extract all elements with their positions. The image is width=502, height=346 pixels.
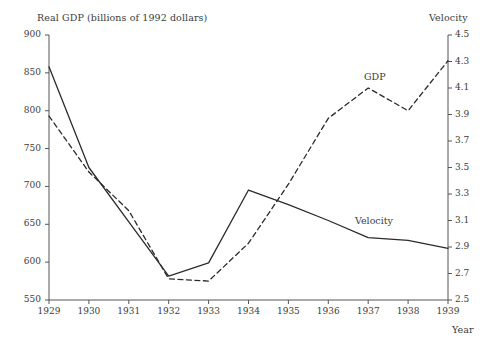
left-tick-label: 850 [15, 67, 41, 77]
right-tick-label: 3.9 [455, 109, 479, 119]
right-tick-label: 3.7 [455, 135, 479, 145]
ticks-group [45, 35, 452, 304]
right-tick-label: 2.5 [455, 294, 479, 304]
left-tick-label: 700 [15, 180, 41, 190]
left-tick-label: 550 [15, 294, 41, 304]
x-tick-label: 1929 [29, 306, 69, 316]
x-tick-label: 1930 [69, 306, 109, 316]
x-tick-label: 1935 [268, 306, 308, 316]
series-line-velocity [49, 67, 448, 276]
right-tick-label: 4.5 [455, 29, 479, 39]
right-tick-label: 4.1 [455, 82, 479, 92]
x-tick-label: 1938 [388, 306, 428, 316]
x-tick-label: 1936 [308, 306, 348, 316]
chart-figure: Real GDP (billions of 1992 dollars) Velo… [0, 0, 502, 346]
right-tick-label: 4.3 [455, 56, 479, 66]
series-line-gdp [49, 61, 448, 281]
right-axis-title: Velocity [429, 12, 468, 23]
plot-area [0, 0, 502, 346]
gdp-series-label: GDP [364, 71, 386, 82]
x-axis-title: Year [452, 324, 474, 335]
left-axis-title: Real GDP (billions of 1992 dollars) [37, 12, 207, 23]
right-tick-label: 2.9 [455, 241, 479, 251]
left-tick-label: 900 [15, 29, 41, 39]
right-tick-label: 3.1 [455, 215, 479, 225]
left-tick-label: 800 [15, 105, 41, 115]
velocity-series-label: Velocity [355, 215, 393, 226]
x-tick-label: 1934 [229, 306, 269, 316]
right-tick-label: 3.5 [455, 162, 479, 172]
left-tick-label: 650 [15, 218, 41, 228]
x-tick-label: 1939 [428, 306, 468, 316]
left-tick-label: 750 [15, 143, 41, 153]
left-tick-label: 600 [15, 256, 41, 266]
x-tick-label: 1932 [149, 306, 189, 316]
series-group [49, 61, 448, 281]
x-tick-label: 1937 [348, 306, 388, 316]
right-tick-label: 2.7 [455, 268, 479, 278]
x-tick-label: 1933 [189, 306, 229, 316]
right-tick-label: 3.3 [455, 188, 479, 198]
x-tick-label: 1931 [109, 306, 149, 316]
axes-group [49, 35, 448, 300]
